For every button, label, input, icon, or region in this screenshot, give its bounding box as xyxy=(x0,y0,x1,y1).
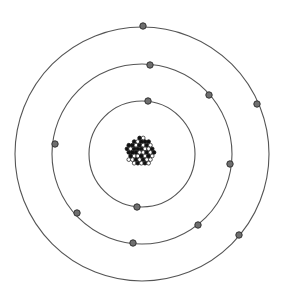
electron xyxy=(130,240,136,246)
nucleon xyxy=(136,147,140,151)
nucleon xyxy=(147,147,151,151)
nucleon xyxy=(127,158,131,162)
nucleon xyxy=(132,147,136,151)
nucleon xyxy=(141,158,145,162)
nucleon xyxy=(143,140,147,144)
nucleon xyxy=(141,151,145,155)
nucleon xyxy=(136,161,140,165)
electron xyxy=(227,161,233,167)
nucleon xyxy=(132,140,136,144)
nucleon xyxy=(127,151,131,155)
nucleon xyxy=(132,161,136,165)
nucleon xyxy=(143,161,147,165)
electron xyxy=(140,23,146,29)
nucleon xyxy=(136,154,140,158)
nucleon xyxy=(141,136,145,140)
nucleon xyxy=(138,151,142,155)
nucleon xyxy=(140,154,144,158)
nucleon xyxy=(131,151,135,155)
nucleon xyxy=(149,143,153,147)
nucleon xyxy=(141,143,145,147)
nucleon xyxy=(147,154,151,158)
electron xyxy=(52,141,58,147)
nucleon xyxy=(140,161,144,165)
nucleon xyxy=(140,140,144,144)
atom-model-graphic xyxy=(0,0,283,302)
nucleon xyxy=(134,143,138,147)
nucleon xyxy=(149,158,153,162)
nucleon xyxy=(149,151,153,155)
nucleon xyxy=(138,136,142,140)
nucleon xyxy=(131,143,135,147)
electron xyxy=(254,101,260,107)
nucleon xyxy=(152,151,156,155)
nucleon xyxy=(145,158,149,162)
nucleon xyxy=(150,147,154,151)
nucleon xyxy=(147,161,151,165)
nucleon xyxy=(131,158,135,162)
electron xyxy=(195,222,201,228)
atom-diagram xyxy=(0,0,283,302)
nucleon xyxy=(138,143,142,147)
electron xyxy=(145,98,151,104)
nucleon xyxy=(125,147,129,151)
nucleon xyxy=(132,154,136,158)
nucleon xyxy=(138,158,142,162)
nucleus xyxy=(125,136,157,168)
nucleon xyxy=(134,158,138,162)
electrons xyxy=(52,23,260,246)
nucleon xyxy=(143,154,147,158)
nucleon xyxy=(143,147,147,151)
electron xyxy=(134,204,140,210)
nucleon xyxy=(129,154,133,158)
nucleon xyxy=(134,151,138,155)
nucleon xyxy=(147,140,151,144)
electron xyxy=(206,92,212,98)
electron xyxy=(74,210,80,216)
nucleon xyxy=(150,154,154,158)
nucleon xyxy=(136,140,140,144)
electron xyxy=(147,62,153,68)
nucleon xyxy=(145,151,149,155)
nucleon xyxy=(145,143,149,147)
nucleon xyxy=(127,143,131,147)
nucleon xyxy=(129,147,133,151)
electron xyxy=(236,232,242,238)
nucleon xyxy=(140,147,144,151)
